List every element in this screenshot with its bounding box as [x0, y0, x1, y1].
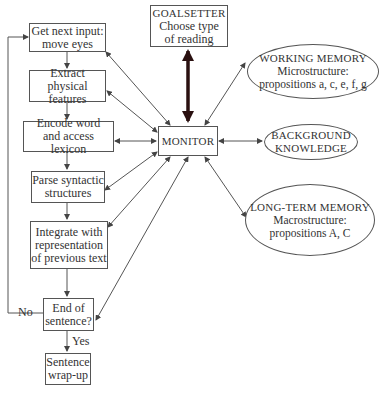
extract-physical-box: Extract physical features [29, 70, 106, 102]
box-text: of previous text [31, 252, 106, 265]
monitor-title: MONITOR [162, 135, 215, 148]
long-term-memory-ellipse: LONG-TERM MEMORY Macrostructure: proposi… [245, 184, 375, 256]
box-text: Choose type [159, 20, 219, 33]
box-text: features [49, 93, 87, 106]
box-text: representation [35, 239, 103, 252]
box-text: structures [45, 187, 92, 200]
box-text: End of [52, 302, 84, 315]
integrate-box: Integrate with representation of previou… [30, 221, 108, 269]
end-of-sentence-box: End of sentence? [43, 298, 94, 331]
sentence-wrap-up-box: Sentence wrap-up [45, 353, 91, 385]
box-text: Get next input: [32, 25, 104, 38]
monitor-box: MONITOR [158, 126, 218, 156]
goalsetter-box: GOALSETTER Choose type of reading [150, 5, 228, 47]
ellipse-text: propositions A, C [270, 227, 351, 240]
encode-word-box: Encode word and access lexicon [23, 121, 114, 152]
parse-syntactic-box: Parse syntactic structures [31, 171, 105, 203]
box-text: move eyes [42, 38, 93, 51]
box-text: and access lexicon [24, 130, 113, 156]
box-text: sentence? [45, 315, 92, 328]
background-knowledge-ellipse: BACKGROUND KNOWLEDGE [264, 124, 358, 160]
box-text: Extract physical [30, 67, 105, 93]
get-next-input-box: Get next input: move eyes [29, 23, 106, 52]
working-memory-ellipse: WORKING MEMORY Microstructure: propositi… [247, 44, 379, 99]
working-memory-title: WORKING MEMORY [259, 52, 367, 65]
ellipse-text: KNOWLEDGE [275, 142, 347, 155]
ellipse-text: propositions a, c, e, f, g [259, 78, 367, 91]
box-text: Integrate with [36, 226, 103, 239]
ellipse-text: BACKGROUND [271, 129, 351, 142]
ellipse-text: Macrostructure: [273, 214, 346, 227]
goalsetter-title: GOALSETTER [153, 7, 226, 20]
ellipse-text: Microstructure: [277, 65, 349, 78]
no-label: No [18, 305, 33, 320]
box-text: of reading [165, 33, 214, 46]
box-text: wrap-up [48, 369, 88, 382]
long-term-memory-title: LONG-TERM MEMORY [250, 201, 370, 214]
yes-label: Yes [72, 334, 89, 349]
